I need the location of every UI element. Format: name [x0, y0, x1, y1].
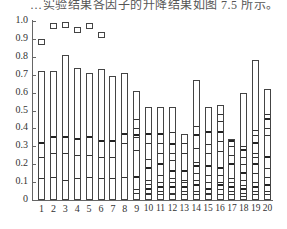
bar-division — [229, 194, 234, 195]
bar-division — [253, 182, 258, 183]
bar-11 — [157, 107, 164, 200]
bar-division — [241, 196, 246, 197]
square-marker — [98, 32, 105, 38]
bar-division — [206, 193, 211, 194]
bar-division — [87, 155, 92, 156]
bar-division — [39, 142, 44, 144]
y-tick-label: 0.1 — [2, 175, 28, 186]
bar-division — [170, 193, 175, 194]
bar-division — [241, 193, 246, 194]
bar-division — [75, 178, 80, 179]
bar-division — [75, 138, 80, 140]
square-marker — [50, 23, 57, 29]
y-tick — [32, 39, 36, 40]
bar-division — [158, 194, 163, 195]
bar-division — [99, 178, 104, 179]
bar-division — [241, 172, 246, 174]
bar-division — [75, 155, 80, 156]
bar-division — [182, 182, 187, 183]
bar-division — [194, 191, 199, 192]
bar-division — [63, 180, 68, 181]
bar-division — [39, 157, 44, 158]
bar-division — [218, 114, 223, 115]
bar-division — [122, 133, 127, 135]
y-tick — [32, 21, 36, 22]
bar-5 — [86, 73, 93, 200]
y-tick — [32, 57, 36, 58]
bar-division — [229, 178, 234, 179]
bar-division — [253, 130, 258, 131]
bar-division — [194, 173, 199, 174]
y-tick-label: 0 — [2, 193, 28, 204]
bar-division — [194, 148, 199, 149]
bar-division — [110, 178, 115, 179]
bar-division — [87, 136, 92, 138]
y-tick-label: 0.7 — [2, 68, 28, 79]
bar-division — [253, 194, 258, 195]
bar-division — [146, 159, 151, 160]
bar-6 — [98, 69, 105, 200]
bar-division — [253, 191, 258, 192]
bar-division — [253, 135, 258, 136]
bar-division — [253, 142, 258, 144]
bar-division — [146, 193, 151, 194]
bar-division — [158, 186, 163, 188]
bar-division — [218, 141, 223, 142]
bar-division — [134, 193, 139, 194]
bar-division — [265, 118, 270, 120]
y-tick-label: 0.3 — [2, 139, 28, 150]
bar-2 — [50, 71, 57, 200]
bar-division — [218, 184, 223, 186]
bar-division — [170, 186, 175, 188]
bar-division — [39, 178, 44, 179]
bar-3 — [62, 55, 69, 200]
bar-18 — [240, 93, 247, 200]
bar-division — [265, 194, 270, 195]
bar-division — [158, 163, 163, 165]
bar-division — [229, 191, 234, 192]
bar-division — [134, 119, 139, 120]
bar-division — [51, 177, 56, 178]
bar-division — [194, 162, 199, 163]
bar-division — [182, 186, 187, 188]
bar-9 — [133, 91, 140, 200]
bar-division — [146, 133, 151, 135]
bar-division — [206, 165, 211, 167]
bar-division — [229, 182, 234, 183]
bar-division — [194, 134, 199, 136]
y-tick — [32, 128, 36, 129]
bar-division — [134, 189, 139, 190]
bar-division — [194, 184, 199, 186]
bar-division — [241, 146, 246, 147]
square-marker — [74, 27, 81, 33]
bar-division — [194, 194, 199, 195]
bar-division — [265, 156, 270, 158]
bar-division — [218, 131, 223, 133]
bar-division — [158, 153, 163, 154]
bar-division — [206, 182, 211, 183]
y-tick-label: 1.0 — [2, 14, 28, 25]
bar-20 — [264, 89, 271, 200]
bar-division — [206, 175, 211, 176]
bar-division — [182, 180, 187, 181]
bar-division — [182, 191, 187, 192]
stacked-bar-chart: 00.10.20.30.40.50.60.70.80.91.0123456789… — [0, 0, 287, 229]
bar-division — [218, 167, 223, 169]
bar-division — [158, 133, 163, 135]
bar-division — [229, 163, 234, 165]
bar-division — [229, 146, 234, 147]
bar-16 — [217, 105, 224, 200]
y-tick — [32, 93, 36, 94]
bar-division — [170, 194, 175, 195]
bar-7 — [109, 76, 116, 200]
bar-division — [218, 194, 223, 195]
bar-division — [241, 188, 246, 190]
bar-division — [182, 153, 187, 154]
bar-division — [218, 175, 223, 176]
bar-division — [99, 157, 104, 158]
bar-8 — [121, 73, 128, 200]
bar-15 — [205, 107, 212, 200]
bar-division — [122, 143, 127, 144]
bar-division — [170, 143, 175, 145]
bar-division — [63, 153, 68, 154]
